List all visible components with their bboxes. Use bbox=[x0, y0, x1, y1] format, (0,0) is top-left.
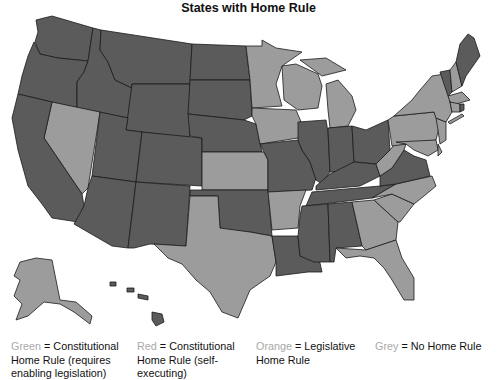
legend-text-grey: No Home Rule bbox=[411, 340, 482, 352]
state-mississippi bbox=[298, 204, 330, 262]
state-connecticut bbox=[450, 102, 460, 112]
state-alaska bbox=[14, 258, 92, 324]
legend-key-grey: Grey bbox=[375, 340, 398, 352]
legend-key-red: Red bbox=[137, 340, 157, 352]
us-map bbox=[0, 0, 497, 340]
state-north-dakota bbox=[190, 44, 250, 80]
state-long-island bbox=[448, 114, 464, 124]
state-florida bbox=[336, 240, 414, 300]
legend-item-orange: Orange = Legislative Home Rule bbox=[256, 340, 366, 367]
legend-key-green: Green bbox=[11, 340, 41, 352]
state-rhode-island bbox=[460, 104, 464, 112]
legend-item-red: Red = Constitutional Home Rule (self-exe… bbox=[137, 340, 249, 380]
state-iowa bbox=[252, 108, 302, 144]
state-delaware bbox=[438, 144, 442, 156]
state-wyoming bbox=[126, 84, 190, 138]
state-kansas bbox=[202, 152, 268, 190]
legend-key-orange: Orange bbox=[256, 340, 292, 352]
state-south-dakota bbox=[188, 80, 252, 120]
state-hawaii bbox=[110, 282, 164, 326]
state-colorado bbox=[136, 132, 202, 186]
legend-item-grey: Grey = No Home Rule bbox=[375, 340, 495, 354]
state-new-mexico bbox=[128, 182, 190, 248]
state-washington bbox=[35, 16, 93, 61]
legend-item-green: Green = Constitutional Home Rule (requir… bbox=[11, 340, 131, 380]
